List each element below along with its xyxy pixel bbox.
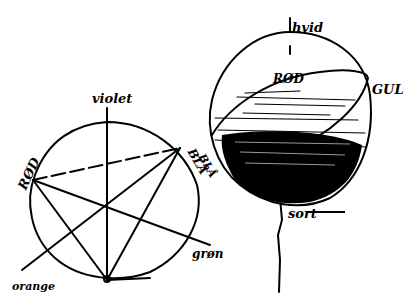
label-gul: GUL [372,82,404,97]
label-gron: grøn [192,247,223,261]
label-orange: orange [12,280,55,293]
color-theory-sketch: violet RØD BLÅ grøn orange hvid RØD GUL … [0,0,417,305]
color-circle [22,108,210,282]
label-hvid: hvid [292,20,323,35]
label-sort: sort [288,206,317,221]
label-rod-sphere: RØD [272,72,304,86]
label-violet: violet [92,91,132,106]
